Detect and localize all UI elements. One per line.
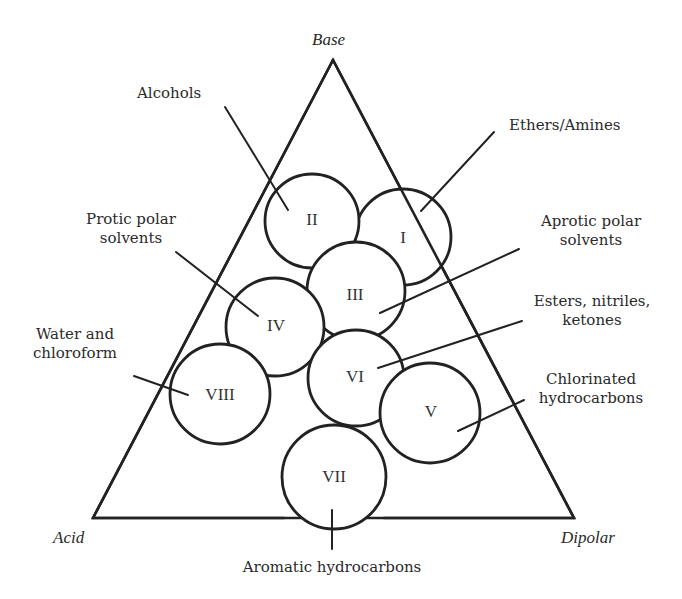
numeral-V: V: [425, 402, 437, 422]
numeral-III: III: [347, 285, 364, 305]
label-chlorinated-line-2: hydrocarbons: [526, 389, 656, 408]
label-protic-line-2: solvents: [66, 229, 196, 248]
label-protic-polar-solvents: Protic polar solvents: [66, 210, 196, 248]
label-protic-line-1: Protic polar: [66, 210, 196, 229]
leader-line-esters: [378, 321, 522, 368]
label-aprotic-line-1: Aprotic polar: [527, 212, 655, 231]
numeral-I: I: [400, 228, 406, 248]
label-esters-line-2: ketones: [522, 311, 662, 330]
numeral-VII: VII: [322, 467, 346, 487]
numeral-IV: IV: [267, 316, 285, 336]
label-aromatic-hydrocarbons: Aromatic hydrocarbons: [232, 558, 432, 577]
numeral-VI: VI: [346, 367, 364, 387]
label-alcohols-line-1: Alcohols: [137, 84, 201, 102]
vertex-label-dipolar: Dipolar: [561, 528, 615, 547]
solvent-triangle-diagram: Base Acid Dipolar II I III IV VI V VIII …: [0, 0, 682, 599]
label-alcohols: Alcohols: [137, 84, 201, 103]
numeral-II: II: [306, 210, 317, 230]
label-esters-nitriles-ketones: Esters, nitriles, ketones: [522, 292, 662, 330]
label-water-line-1: Water and: [20, 325, 130, 344]
leader-line-protic-polar: [176, 252, 258, 316]
label-esters-line-1: Esters, nitriles,: [522, 292, 662, 311]
label-aprotic-line-2: solvents: [527, 231, 655, 250]
leader-line-alcohols: [225, 107, 288, 210]
vertex-label-base: Base: [312, 30, 345, 49]
label-aprotic-polar-solvents: Aprotic polar solvents: [527, 212, 655, 250]
numeral-VIII: VIII: [205, 385, 234, 405]
label-ethers-amines: Ethers/Amines: [509, 116, 621, 135]
label-water-line-2: chloroform: [20, 344, 130, 363]
leader-line-ethers-amines: [421, 132, 494, 211]
label-ethers-amines-line-1: Ethers/Amines: [509, 116, 621, 134]
label-chlorinated-hydrocarbons: Chlorinated hydrocarbons: [526, 370, 656, 408]
label-aromatic-line-1: Aromatic hydrocarbons: [243, 558, 422, 576]
vertex-label-acid: Acid: [53, 528, 84, 547]
label-water-chloroform: Water and chloroform: [20, 325, 130, 363]
label-chlorinated-line-1: Chlorinated: [526, 370, 656, 389]
